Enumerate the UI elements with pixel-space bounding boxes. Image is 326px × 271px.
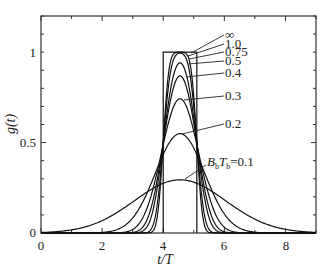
curve-bt-0-5 — [41, 63, 316, 233]
label-0-2: 0.2 — [225, 116, 241, 131]
y-tick-1: 1 — [30, 45, 37, 60]
curve-bt-0-75 — [41, 53, 316, 233]
curve-bt-0-2 — [41, 134, 316, 233]
y-axis-title: g(t) — [3, 114, 19, 135]
label-bbtb-0-1: BbTb=0.1 — [207, 154, 254, 171]
curves — [41, 52, 316, 233]
curve-bt-0-3 — [41, 99, 316, 233]
x-tick-2: 2 — [99, 238, 106, 253]
curve-bt-0-1 — [41, 180, 316, 233]
leader-inf — [191, 35, 224, 53]
x-tick-0: 0 — [38, 238, 45, 253]
label-0-4: 0.4 — [225, 65, 242, 80]
leader-0-3 — [184, 96, 224, 100]
leader-1-0 — [188, 44, 224, 56]
curve-labels: ∞ 1.0 0.75 0.5 0.4 0.3 0.2 BbTb=0.1 — [207, 27, 254, 171]
y-tick-labels: 0 0.5 1 — [20, 45, 36, 240]
x-axis-title: t/T — [157, 252, 174, 267]
x-tick-4: 4 — [160, 238, 167, 253]
axis-ticks — [41, 16, 316, 233]
y-tick-0-5: 0.5 — [20, 135, 36, 150]
x-tick-labels: 0 2 4 6 8 — [38, 238, 290, 253]
plot-frame — [41, 16, 316, 233]
x-tick-6: 6 — [221, 238, 228, 253]
curve-bt-1 — [41, 52, 316, 233]
label-0-3: 0.3 — [225, 88, 241, 103]
gaussian-pulse-chart: 0 2 4 6 8 0 0.5 1 t/T g(t) ∞ 1.0 0.75 0.… — [0, 0, 326, 271]
leader-0-5 — [188, 61, 224, 64]
x-tick-8: 8 — [283, 238, 290, 253]
leader-0-2 — [182, 124, 224, 134]
y-tick-0: 0 — [30, 225, 37, 240]
leader-0-75 — [189, 52, 224, 59]
